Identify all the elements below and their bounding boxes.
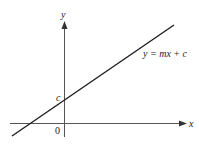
y-axis-label: y — [60, 9, 66, 20]
equation-label: y = mx + c — [142, 48, 188, 59]
x-axis-label: x — [188, 118, 194, 129]
straight-line — [12, 25, 174, 136]
x-axis-arrowhead-icon — [179, 121, 187, 127]
y-axis-arrowhead-icon — [62, 21, 68, 29]
line-graph-diagram: x y 0 c y = mx + c — [0, 0, 199, 146]
y-intercept-label: c — [56, 92, 61, 103]
origin-label: 0 — [55, 125, 60, 136]
